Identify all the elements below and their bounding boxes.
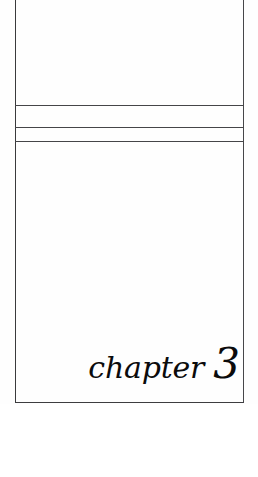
chapter-number: 3	[213, 343, 240, 385]
page-footer-margin	[0, 404, 258, 477]
frame-top-panel	[17, 0, 242, 104]
scanned-page: chapter 3	[0, 0, 258, 477]
horizontal-rule-middle	[15, 127, 244, 128]
frame-band-upper	[17, 107, 242, 126]
chapter-label: chapter	[88, 353, 204, 383]
horizontal-rule-upper	[15, 105, 244, 106]
horizontal-rule-lower	[15, 141, 244, 142]
frame-band-lower	[17, 129, 242, 140]
chapter-heading: chapter 3	[88, 343, 240, 385]
